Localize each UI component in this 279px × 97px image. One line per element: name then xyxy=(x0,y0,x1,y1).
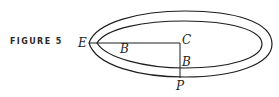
label-B-vertical: B xyxy=(181,55,191,69)
label-E: E xyxy=(77,36,87,50)
label-C: C xyxy=(182,33,191,47)
label-P: P xyxy=(175,79,185,93)
label-B-horizontal: B xyxy=(119,42,129,56)
diagram-canvas: E B C B P xyxy=(0,0,279,97)
